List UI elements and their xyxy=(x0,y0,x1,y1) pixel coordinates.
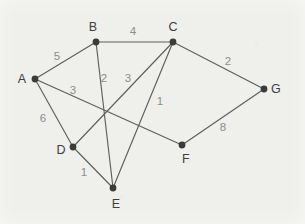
edge-weight-d-e: 1 xyxy=(81,166,87,178)
node-label-f: F xyxy=(182,152,190,166)
graph-edge-a-b xyxy=(35,42,96,79)
node-label-e: E xyxy=(112,197,121,211)
edge-weight-c-d: 3 xyxy=(125,72,131,84)
graph-edge-f-g xyxy=(182,89,264,145)
edge-weight-b-e: 2 xyxy=(101,72,107,84)
graph-edge-c-e xyxy=(113,42,173,188)
node-label-a: A xyxy=(18,72,27,86)
edge-weight-f-g: 8 xyxy=(220,121,226,133)
graph-node-b[interactable] xyxy=(93,39,100,46)
graph-node-f[interactable] xyxy=(179,142,186,149)
graph-edge-a-f xyxy=(35,79,182,145)
edge-weight-a-d: 6 xyxy=(40,112,46,124)
graph-node-a[interactable] xyxy=(32,76,39,83)
graph-edge-b-e xyxy=(96,42,113,188)
graph-node-e[interactable] xyxy=(110,185,117,192)
node-label-b: B xyxy=(89,20,98,34)
graph-node-g[interactable] xyxy=(261,86,268,93)
edge-weight-b-c: 4 xyxy=(130,25,136,37)
node-label-g: G xyxy=(271,82,281,96)
nodes-group xyxy=(32,39,268,192)
graph-edge-d-e xyxy=(73,147,113,188)
node-label-d: D xyxy=(56,143,65,157)
graph-node-c[interactable] xyxy=(170,39,177,46)
node-label-c: C xyxy=(168,20,177,34)
graph-node-d[interactable] xyxy=(70,144,77,151)
graph-diagram-canvas: 5634231218ABCDEFG xyxy=(0,0,305,224)
edge-weight-c-g: 2 xyxy=(225,55,231,67)
edge-weight-c-e: 1 xyxy=(157,95,163,107)
edge-weight-a-b: 5 xyxy=(54,50,60,62)
edge-weight-a-f: 3 xyxy=(70,84,76,96)
graph-edge-c-g xyxy=(173,42,264,89)
